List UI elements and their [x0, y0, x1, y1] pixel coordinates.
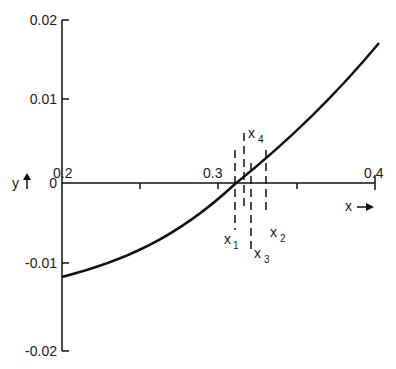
x1-label: x [224, 231, 231, 247]
y-tick-label: -0.01 [25, 255, 57, 271]
y-tick-label: -0.02 [25, 343, 57, 359]
y-tick-label: 0.02 [30, 12, 57, 28]
x2-label: x [270, 224, 277, 240]
svg-text:1: 1 [233, 240, 239, 251]
right-arrow-icon [357, 203, 374, 211]
y-tick-label: 0.01 [30, 91, 57, 107]
svg-text:3: 3 [264, 254, 270, 265]
function-curve [62, 43, 379, 277]
x3-label: x [254, 245, 261, 261]
x-tick-label: 0.3 [203, 165, 223, 181]
y-axis-label: y [12, 175, 19, 191]
svg-text:2: 2 [280, 233, 286, 244]
x4-label: x [248, 125, 255, 141]
chart: 0.02 0.01 0 -0.01 -0.02 y 0.2 0.3 0.4 x … [0, 0, 396, 369]
x-axis-label: x [345, 198, 352, 214]
x-tick-label: 0.2 [53, 165, 73, 181]
up-arrow-icon [23, 173, 31, 189]
x-tick-label: 0.4 [364, 165, 384, 181]
svg-text:4: 4 [258, 134, 264, 145]
